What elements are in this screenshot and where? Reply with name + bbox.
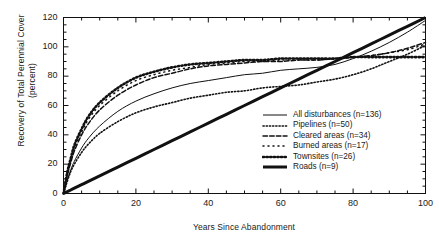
legend-swatch-dot-dash-heavy	[262, 152, 288, 162]
x-tick-label: 20	[121, 198, 151, 208]
legend-swatch-fine-dotted	[262, 121, 288, 131]
legend-item[interactable]: Roads (n=9)	[262, 162, 382, 172]
legend-label: Burned areas (n=17)	[293, 141, 368, 151]
chart-legend: All disturbances (n=136)Pipelines (n=50)…	[262, 110, 382, 172]
x-tick-label: 40	[193, 198, 223, 208]
legend-label: All disturbances (n=136)	[293, 110, 382, 120]
x-tick-label: 60	[266, 198, 296, 208]
legend-label: Pipelines (n=50)	[293, 120, 352, 130]
legend-item[interactable]: Cleared areas (n=34)	[262, 131, 382, 141]
y-tick-label: 120	[32, 12, 58, 22]
legend-item[interactable]: Pipelines (n=50)	[262, 120, 382, 130]
chart-figure: Recovery of Total Perennial Cover (perce…	[0, 0, 439, 247]
x-axis-label: Years Since Abandonment	[63, 222, 425, 232]
x-tick-label: 80	[338, 198, 368, 208]
x-tick-label: 0	[49, 198, 79, 208]
legend-label: Cleared areas (n=34)	[293, 131, 371, 141]
legend-swatch-solid-thick	[262, 162, 288, 172]
y-tick-label: 20	[32, 158, 58, 168]
y-tick-label: 40	[32, 129, 58, 139]
legend-label: Roads (n=9)	[293, 162, 338, 172]
y-tick-label: 100	[32, 41, 58, 51]
x-tick-label: 100	[411, 198, 439, 208]
y-tick-label: 80	[32, 70, 58, 80]
y-tick-label: 60	[32, 100, 58, 110]
legend-item[interactable]: Townsites (n=26)	[262, 152, 382, 162]
legend-swatch-sparse-dotted	[262, 141, 288, 151]
legend-item[interactable]: Burned areas (n=17)	[262, 141, 382, 151]
legend-item[interactable]: All disturbances (n=136)	[262, 110, 382, 120]
y-tick-label: 0	[32, 188, 58, 198]
legend-swatch-solid-thin	[262, 110, 288, 120]
legend-swatch-dashed	[262, 131, 288, 141]
legend-label: Townsites (n=26)	[293, 152, 355, 162]
